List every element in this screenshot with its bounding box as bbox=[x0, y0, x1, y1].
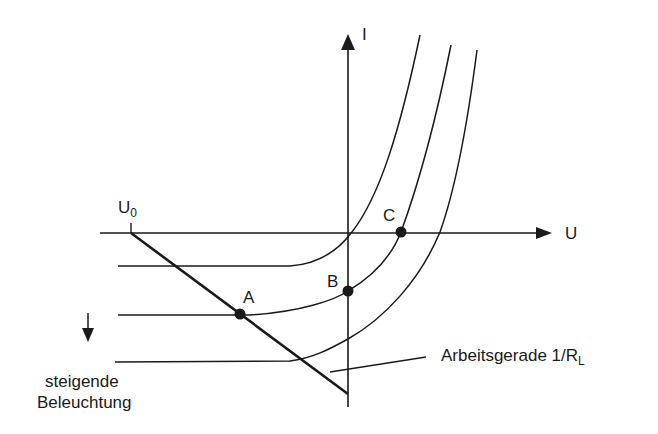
point-b-marker bbox=[343, 286, 354, 297]
iv-curve-1 bbox=[118, 35, 420, 266]
illumination-label-line1: steigende bbox=[45, 373, 119, 390]
i-axis-label: I bbox=[362, 26, 367, 43]
point-a-label: A bbox=[243, 289, 254, 306]
iv-curve-2 bbox=[118, 45, 451, 315]
load-line-sub: L bbox=[578, 354, 585, 368]
point-c-marker bbox=[396, 227, 407, 238]
u-axis-arrow-icon bbox=[536, 227, 552, 239]
i-axis-arrow-icon bbox=[341, 34, 355, 50]
load-line-text: Arbeitsgerade 1/R bbox=[441, 346, 578, 365]
load-line-label: Arbeitsgerade 1/RL bbox=[441, 347, 585, 367]
point-c-label: C bbox=[383, 207, 395, 224]
u0-sub: 0 bbox=[130, 206, 137, 220]
iv-characteristic-diagram bbox=[0, 0, 658, 434]
load-line-leader bbox=[330, 357, 426, 372]
point-b-label: B bbox=[327, 273, 338, 290]
point-a-marker bbox=[235, 309, 246, 320]
u-axis-label: U bbox=[565, 225, 577, 242]
illumination-label-line2: Beleuchtung bbox=[37, 394, 132, 411]
u0-label: U0 bbox=[118, 199, 137, 219]
u0-main: U bbox=[118, 198, 130, 217]
down-arrow-icon bbox=[82, 328, 94, 342]
